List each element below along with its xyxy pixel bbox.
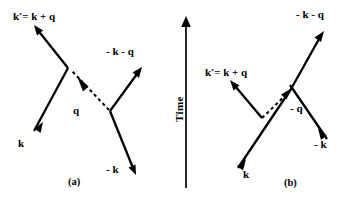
panel-a-minus-k-label: - k bbox=[106, 163, 119, 175]
panel-b-minus-q-label: - q bbox=[290, 102, 303, 114]
panel-b: k′= k + q - k - q k - k - q (b) bbox=[205, 8, 327, 189]
panel-a: k′= k + q - k - q k - k q (a) bbox=[13, 10, 142, 188]
panel-a-minus-k-minus-q-label: - k - q bbox=[106, 45, 135, 57]
panel-b-minus-k-minus-q-label: - k - q bbox=[296, 8, 325, 20]
panel-a-caption: (a) bbox=[68, 176, 81, 188]
time-axis-arrow-head-up bbox=[181, 16, 191, 27]
panel-b-minus-k-minus-q-outgoing-line bbox=[291, 31, 324, 89]
panel-a-q-label: q bbox=[73, 104, 80, 116]
time-axis: Time bbox=[173, 16, 191, 188]
arrow-head-up-right bbox=[315, 31, 325, 42]
panel-a-minus-k-minus-q-outgoing-line bbox=[110, 67, 142, 111]
arrow-head-phonon-up-right bbox=[281, 88, 292, 100]
feynman-diagram-figure: k′= k + q - k - q k - k q (a) Time bbox=[0, 0, 354, 202]
panel-a-k-prime-outgoing-line bbox=[34, 25, 68, 68]
panel-b-k-incoming-line bbox=[237, 89, 291, 171]
panel-a-k-prime-label: k′= k + q bbox=[13, 10, 56, 22]
panel-b-k-label: k bbox=[243, 168, 250, 180]
time-axis-label: Time bbox=[173, 96, 185, 122]
panel-a-k-label: k bbox=[18, 137, 25, 149]
panel-a-k-incoming-line bbox=[34, 68, 68, 133]
panel-b-k-prime-outgoing-line bbox=[230, 80, 262, 118]
arrow-head-down-right bbox=[129, 165, 137, 176]
arrow-head-phonon-up-left bbox=[77, 76, 89, 92]
panel-b-phonon-exchange-dashed-line bbox=[262, 88, 292, 118]
panel-b-k-prime-label: k′= k + q bbox=[205, 66, 248, 78]
panel-b-caption: (b) bbox=[284, 177, 297, 189]
diagram-canvas: k′= k + q - k - q k - k q (a) Time bbox=[0, 0, 354, 202]
panel-b-minus-k-label: - k bbox=[314, 138, 327, 150]
